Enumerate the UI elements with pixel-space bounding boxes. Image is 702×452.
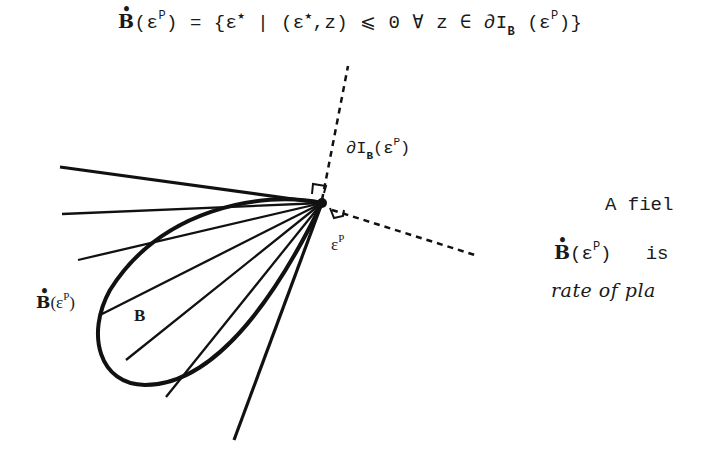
side-text-line3: rate of pla bbox=[551, 279, 656, 301]
convex-set-diagram bbox=[0, 0, 702, 452]
vertex-point bbox=[317, 198, 327, 208]
subdifferential-label: ∂IB(εP) bbox=[346, 136, 410, 162]
cone-rays bbox=[60, 167, 322, 440]
cone-symbol: •B bbox=[118, 10, 135, 32]
set-label: B bbox=[134, 306, 145, 326]
right-angle-marker-right bbox=[330, 208, 344, 218]
normal-dashed-right bbox=[332, 210, 478, 256]
cone-label: •B(εP) bbox=[36, 290, 75, 313]
vertex-label: εP bbox=[331, 232, 344, 255]
side-text-line1: A fiel bbox=[605, 194, 673, 216]
normal-dashed-up bbox=[322, 66, 348, 200]
definition-formula: •B(εP) = {ε★ | (ε★,z) ⩽ 0 ∀ z ∈ ∂IB (εP)… bbox=[118, 8, 583, 39]
side-text-line2: •B(εP) is bbox=[554, 240, 669, 265]
